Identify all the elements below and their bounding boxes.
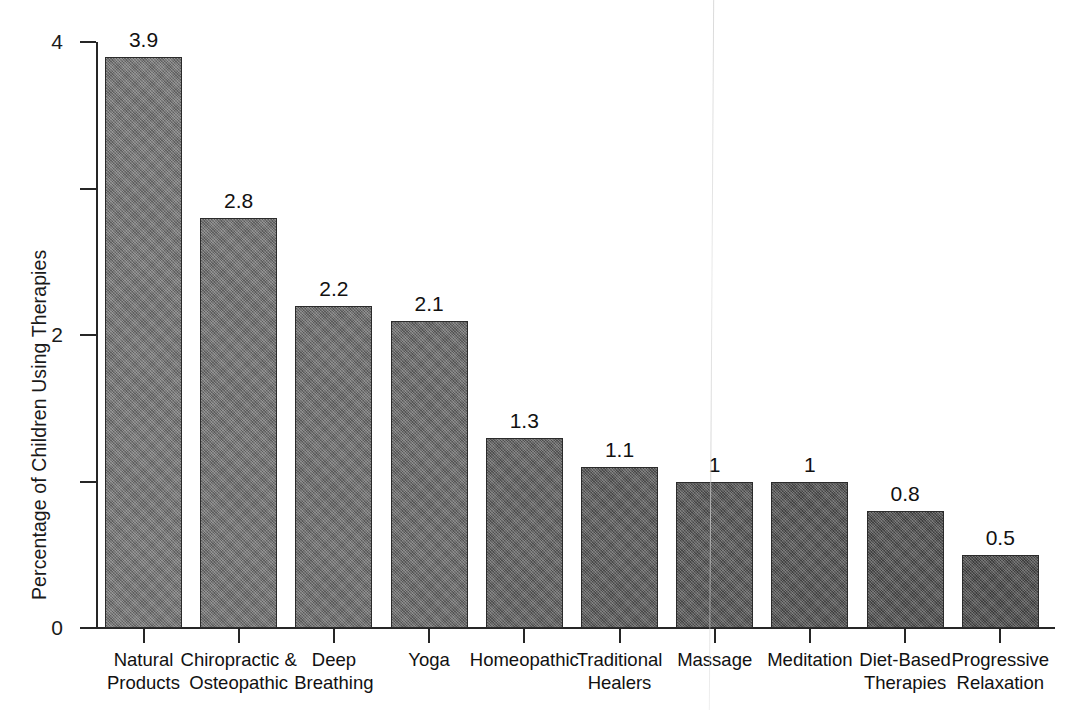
x-axis-tick	[333, 629, 335, 643]
bar	[676, 482, 753, 628]
x-axis-tick	[619, 629, 621, 643]
x-axis-tick	[238, 629, 240, 643]
bar-value-label: 1.3	[484, 410, 564, 431]
x-axis-category-label-line: Healers	[540, 671, 700, 694]
bar-value-label: 1.1	[580, 439, 660, 460]
y-axis-tick-label: 2	[51, 324, 63, 345]
bar-value-label: 0.5	[960, 527, 1040, 548]
x-axis-category-label: ProgressiveRelaxation	[920, 648, 1075, 694]
bar	[295, 306, 372, 628]
bar-value-label: 1	[675, 454, 755, 475]
bar-value-label: 1	[770, 454, 850, 475]
bar	[200, 218, 277, 628]
x-axis-tick	[904, 629, 906, 643]
x-axis-tick	[999, 629, 1001, 643]
y-axis-tick-label: 4	[51, 31, 63, 52]
x-axis-tick	[809, 629, 811, 643]
x-axis-tick	[143, 629, 145, 643]
x-axis-category-label-line: Progressive	[920, 648, 1075, 671]
x-axis-tick	[714, 629, 716, 643]
y-axis-title: Percentage of Children Using Therapies	[24, 0, 54, 600]
y-axis-line	[96, 42, 98, 629]
bar	[962, 555, 1039, 628]
bar	[486, 438, 563, 628]
x-axis-tick	[523, 629, 525, 643]
bar-chart-figure: Percentage of Children Using Therapies 0…	[0, 0, 1075, 710]
y-axis-tick-label: 0	[51, 617, 63, 638]
y-axis-tick	[80, 334, 96, 336]
y-axis-tick	[80, 41, 96, 43]
bar	[581, 467, 658, 628]
bar-value-label: 3.9	[104, 29, 184, 50]
bar	[867, 511, 944, 628]
bar	[391, 321, 468, 628]
bar	[105, 57, 182, 628]
bar-value-label: 0.8	[865, 483, 945, 504]
bar-value-label: 2.1	[389, 293, 469, 314]
x-axis-category-label-line: Breathing	[254, 671, 414, 694]
y-axis-tick	[80, 188, 96, 190]
x-axis-category-label-line: Relaxation	[920, 671, 1075, 694]
y-axis-tick	[80, 627, 96, 629]
x-axis-tick	[428, 629, 430, 643]
y-axis-tick	[80, 481, 96, 483]
bar	[771, 482, 848, 628]
bar-value-label: 2.2	[294, 278, 374, 299]
bar-value-label: 2.8	[199, 190, 279, 211]
